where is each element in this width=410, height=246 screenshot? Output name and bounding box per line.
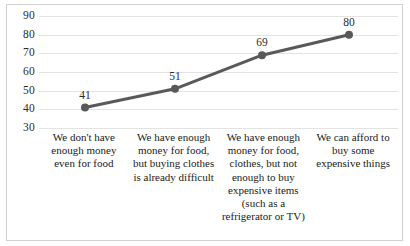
y-axis: 90 80 70 60 50 40 30 bbox=[9, 16, 35, 128]
category-label-2: We have enough money for food, but buyin… bbox=[129, 131, 219, 235]
line-series bbox=[39, 16, 398, 128]
y-axis-tick-50: 50 bbox=[9, 85, 35, 97]
category-label-4: We can afford to buy some expensive thin… bbox=[308, 131, 398, 235]
data-point-1 bbox=[81, 103, 89, 111]
x-axis-category-labels: We don't have enough money even for food… bbox=[39, 131, 398, 235]
category-label-1: We don't have enough money even for food bbox=[39, 131, 129, 235]
y-axis-tick-40: 40 bbox=[9, 103, 35, 115]
y-axis-tick-60: 60 bbox=[9, 66, 35, 78]
data-label-1: 41 bbox=[79, 90, 91, 102]
data-point-4 bbox=[345, 31, 353, 39]
data-label-2: 51 bbox=[169, 71, 181, 83]
y-axis-tick-30: 30 bbox=[9, 122, 35, 134]
data-label-3: 69 bbox=[256, 37, 268, 49]
gridline-30 bbox=[39, 128, 398, 129]
data-point-2 bbox=[171, 85, 179, 93]
series-line bbox=[85, 35, 349, 108]
y-axis-tick-80: 80 bbox=[9, 29, 35, 41]
y-axis-tick-90: 90 bbox=[9, 10, 35, 22]
data-label-4: 80 bbox=[343, 17, 355, 29]
chart-frame: 90 80 70 60 50 40 30 41 51 69 80 We don'… bbox=[6, 4, 403, 241]
category-label-3: We have enough money for food, clothes, … bbox=[219, 131, 309, 235]
y-axis-tick-70: 70 bbox=[9, 47, 35, 59]
data-point-3 bbox=[258, 51, 266, 59]
plot-area: 41 51 69 80 bbox=[39, 16, 398, 128]
